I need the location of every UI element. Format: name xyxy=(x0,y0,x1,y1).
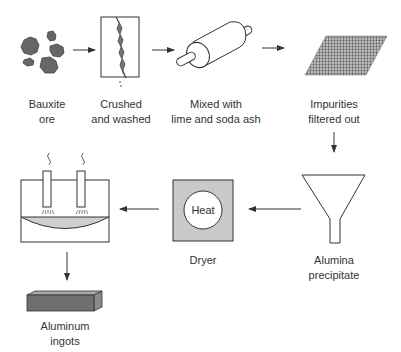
label-line: Alumina xyxy=(309,253,360,268)
step-label-crushed: Crushed and washed xyxy=(91,97,150,127)
dryer-heat-label: Heat xyxy=(191,204,214,216)
label-line: Crushed xyxy=(91,97,150,112)
funnel-icon xyxy=(302,175,365,243)
filter-mesh-icon xyxy=(305,36,387,75)
label-line: Mixed with xyxy=(171,97,260,112)
step-label-ingots: Aluminum ingots xyxy=(41,319,90,349)
label-line: Aluminum xyxy=(41,319,90,334)
smelter-icon xyxy=(21,153,109,242)
step-label-alumina: Alumina precipitate xyxy=(309,253,360,283)
step-label-mixed: Mixed with lime and soda ash xyxy=(171,97,260,127)
label-line: ore xyxy=(29,112,66,127)
step-label-dryer: Dryer xyxy=(190,253,217,268)
ingot-icon xyxy=(27,291,102,311)
label-line: ingots xyxy=(41,334,90,349)
crushed-icon xyxy=(101,17,139,87)
step-label-impurities: Impurities filtered out xyxy=(308,97,359,127)
label-line: and washed xyxy=(91,112,150,127)
label-line: filtered out xyxy=(308,112,359,127)
step-label-bauxite: Bauxite ore xyxy=(29,97,66,127)
bauxite-ore-icon xyxy=(21,31,64,73)
label-line: lime and soda ash xyxy=(171,112,260,127)
label-line: Dryer xyxy=(190,253,217,268)
label-line: precipitate xyxy=(309,268,360,283)
process-diagram xyxy=(0,0,401,352)
mixer-drum-icon xyxy=(175,22,253,72)
label-line: Impurities xyxy=(308,97,359,112)
label-line: Bauxite xyxy=(29,97,66,112)
